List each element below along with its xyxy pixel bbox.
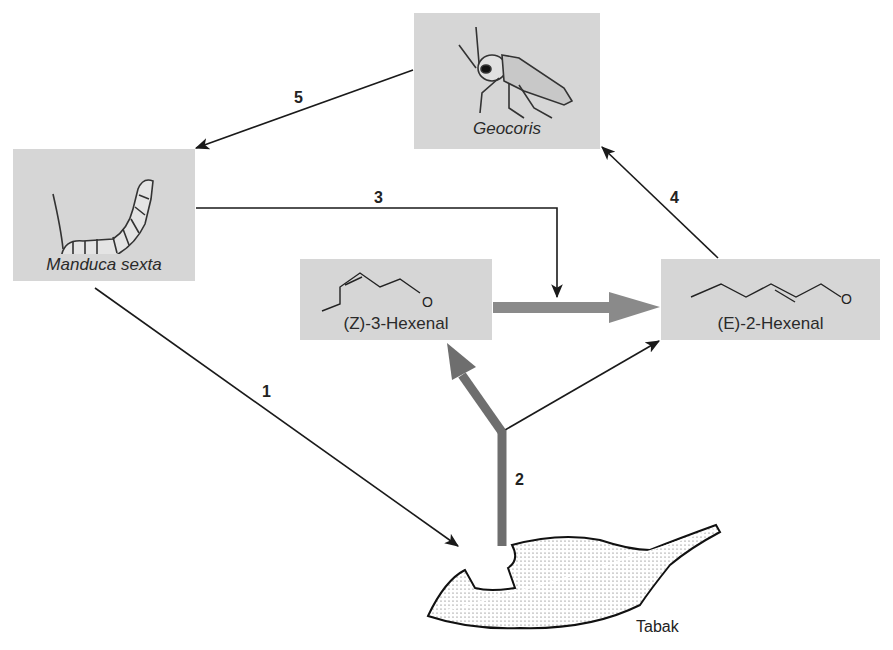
arrow-2-to-e2hexenal xyxy=(505,341,659,430)
arrow-3 xyxy=(196,208,557,297)
arrow-label-2: 2 xyxy=(515,471,524,489)
arrow-label-1: 1 xyxy=(262,383,271,401)
arrow-1 xyxy=(95,288,458,546)
conversion-arrow-shaft xyxy=(493,302,613,313)
arrow-4 xyxy=(602,147,718,258)
arrow-label-4: 4 xyxy=(670,189,679,207)
arrow-5 xyxy=(196,70,413,148)
conversion-arrow-head xyxy=(609,292,660,323)
arrow-2-to-z3hexenal xyxy=(462,375,502,432)
arrow-label-3: 3 xyxy=(374,189,383,207)
arrow-label-5: 5 xyxy=(294,89,303,107)
arrow-2-head xyxy=(447,343,476,380)
tabak-label: Tabak xyxy=(636,618,679,636)
leaf-icon xyxy=(420,520,740,640)
